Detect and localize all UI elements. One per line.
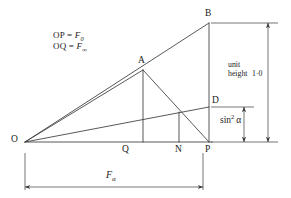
- sin-squared-base: sin: [220, 115, 231, 125]
- point-label-N: N: [175, 145, 182, 155]
- point-label-P: P: [205, 145, 210, 155]
- unit-height-line-2: height: [228, 69, 248, 78]
- point-label-Q: Q: [122, 145, 129, 155]
- unit-height-line-1: unit: [228, 60, 248, 69]
- f-alpha-subscript: α: [112, 175, 116, 183]
- point-label-D: D: [212, 96, 219, 106]
- diagram-canvas: [0, 0, 291, 198]
- sin-squared-angle: α: [234, 115, 241, 125]
- formula-oq: OQ = F∞: [53, 42, 87, 54]
- formula-oq-subscript: ∞: [82, 46, 87, 53]
- f-alpha-label: Fα: [106, 170, 116, 183]
- formula-op-lhs: OP =: [53, 30, 75, 40]
- formula-oq-lhs: OQ =: [53, 41, 77, 51]
- unit-height-value: 1·0: [252, 69, 262, 78]
- segment-chord-A-P: [143, 70, 209, 142]
- geometry-figure: O Q N P A B D OP = F0 OQ = F∞ unit heigh…: [0, 0, 291, 198]
- point-label-A: A: [138, 56, 145, 66]
- sin-squared-label: sin2α: [220, 114, 241, 126]
- point-label-B: B: [205, 9, 212, 19]
- point-label-O: O: [11, 135, 18, 145]
- unit-height-label: unit height: [228, 60, 248, 78]
